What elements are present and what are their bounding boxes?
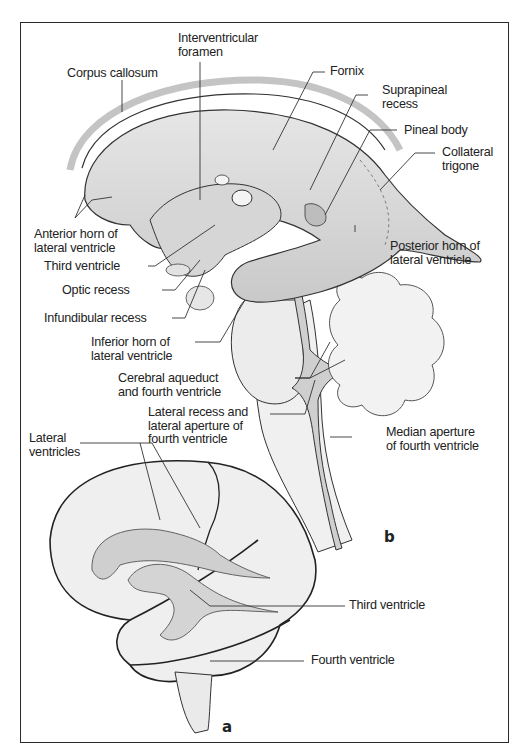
label-infundibular-recess: Infundibular recess <box>44 312 147 326</box>
label-fornix: Fornix <box>330 65 364 79</box>
ventricle-illustration <box>0 0 525 755</box>
label-cerebral-aqueduct: Cerebral aqueduct and fourth ventricle <box>118 372 221 399</box>
label-corpus-callosum: Corpus callosum <box>67 67 158 81</box>
panel-letter-a: a <box>222 718 232 736</box>
label-suprapineal-recess: Suprapineal recess <box>382 84 447 111</box>
label-interventricular-foramen: Interventricular foramen <box>178 32 258 59</box>
label-inferior-horn: Inferior horn of lateral ventricle <box>91 336 172 363</box>
label-optic-recess: Optic recess <box>62 284 130 298</box>
label-third-ventricle-b: Third ventricle <box>44 260 120 274</box>
label-posterior-horn: Posterior horn of lateral ventricle <box>390 240 480 267</box>
label-anterior-horn: Anterior horn of lateral ventricle <box>34 228 118 255</box>
label-median-aperture: Median aperture of fourth ventricle <box>386 426 479 453</box>
label-third-ventricle-a: Third ventricle <box>349 599 425 613</box>
label-lateral-recess: Lateral recess and lateral aperture of f… <box>148 406 248 447</box>
label-fourth-ventricle: Fourth ventricle <box>311 654 395 668</box>
label-lateral-ventricles: Lateral ventricles <box>29 432 80 459</box>
panel-letter-b: b <box>384 528 395 546</box>
label-collateral-trigone: Collateral trigone <box>442 146 493 173</box>
label-pineal-body: Pineal body <box>404 124 468 138</box>
panel-a-drawing <box>50 461 316 733</box>
